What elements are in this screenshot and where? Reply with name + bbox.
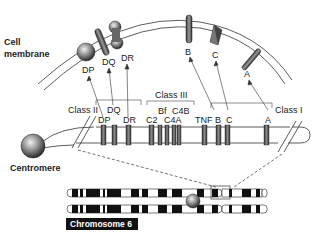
gene-label-c: C xyxy=(226,115,233,125)
centromere-sphere-icon xyxy=(21,134,45,158)
protein-label-b: B xyxy=(185,47,191,57)
protein-a-crossrod-icon xyxy=(241,48,262,71)
gene-label-c4b: C4B xyxy=(172,106,190,116)
protein-label-a: A xyxy=(244,69,250,79)
mhc-diagram: Cell membrane DP DQ DR B C A Class II DQ… xyxy=(0,0,315,241)
protein-label-dq: DQ xyxy=(102,57,116,67)
protein-b-rod-icon xyxy=(186,15,192,43)
gene-label-c2: C2 xyxy=(146,115,158,125)
protein-c-diamond-icon xyxy=(210,25,222,45)
class-ii-label: Class II xyxy=(68,105,98,115)
zoom-indicator-lines xyxy=(78,150,282,187)
protein-label-dr: DR xyxy=(121,53,134,63)
class-ii-dq-label: DQ xyxy=(107,105,121,115)
gene-label-b: B xyxy=(215,115,221,125)
cell-membrane-label-1: Cell xyxy=(4,37,21,47)
gene-label-dr: DR xyxy=(123,115,136,125)
gene-label-tnf: TNF xyxy=(195,115,213,125)
protein-label-dp: DP xyxy=(82,65,95,75)
centromere-label: Centromere xyxy=(10,163,61,173)
protein-dp-sphere-icon xyxy=(77,43,95,61)
chromosome-centromere-icon xyxy=(186,194,200,208)
chromosome-label: Chromosome 6 xyxy=(70,219,132,229)
gene-label-dp: DP xyxy=(98,115,111,125)
protein-label-c: C xyxy=(212,50,219,60)
class-i-label: Class I xyxy=(275,105,303,115)
chromosome-6-pair xyxy=(67,186,267,213)
gene-label-a: A xyxy=(265,115,271,125)
cell-membrane-label-2: membrane xyxy=(4,49,50,59)
gene-bands xyxy=(101,125,269,145)
gene-label-c4a: C4A xyxy=(164,115,182,125)
class-iii-label: Class III xyxy=(155,90,188,100)
